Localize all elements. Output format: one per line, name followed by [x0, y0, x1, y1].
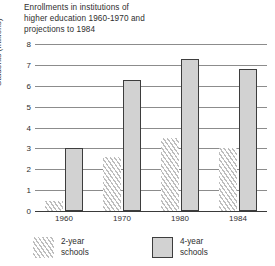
bar-1970-four-year — [123, 80, 141, 212]
chart-legend: 2-yearschools4-yearschools — [33, 236, 273, 264]
x-tick-label-1984: 1984 — [229, 214, 247, 223]
bar-1984-four-year — [239, 69, 257, 211]
legend-swatch-four-year-icon — [152, 237, 173, 258]
legend-item-four-year-schools: 4-yearschools — [152, 236, 208, 258]
legend-label: 2-yearschools — [61, 236, 89, 258]
x-tick-label-1960: 1960 — [55, 214, 73, 223]
chart-title: Enrollments in institutions of higher ed… — [24, 2, 254, 36]
y-tick-label-7: 7 — [27, 60, 31, 69]
bar-1984-two-year — [219, 148, 237, 211]
bars-layer — [35, 44, 267, 211]
bar-1980-two-year — [161, 138, 179, 211]
y-tick-label-6: 6 — [27, 81, 31, 90]
bar-1960-two-year — [45, 201, 63, 211]
y-tick-label-1: 1 — [27, 186, 31, 195]
y-tick-label-8: 8 — [27, 40, 31, 49]
legend-label-line: 2-year — [61, 236, 89, 247]
y-tick-label-3: 3 — [27, 144, 31, 153]
y-axis-title: Students (millions) — [0, 18, 3, 86]
gridline-0: 0 — [35, 211, 267, 212]
y-tick-label-4: 4 — [27, 123, 31, 132]
legend-label-line: schools — [180, 247, 208, 258]
x-tick-label-1980: 1980 — [171, 214, 189, 223]
legend-swatch-two-year-icon — [33, 237, 54, 258]
bar-1980-four-year — [181, 59, 199, 211]
chart-title-line-1: Enrollments in institutions of — [24, 2, 254, 13]
chart-title-line-3: projections to 1984 — [24, 24, 254, 35]
y-tick-label-5: 5 — [27, 102, 31, 111]
legend-label-line: 4-year — [180, 236, 208, 247]
bar-1970-two-year — [103, 157, 121, 211]
legend-item-two-year-schools: 2-yearschools — [33, 236, 89, 258]
y-tick-label-0: 0 — [27, 207, 31, 216]
x-tick-label-1970: 1970 — [113, 214, 131, 223]
legend-label: 4-yearschools — [180, 236, 208, 258]
y-tick-label-2: 2 — [27, 165, 31, 174]
legend-label-line: schools — [61, 247, 89, 258]
bar-1960-four-year — [65, 148, 83, 211]
x-axis-labels: 1960197019801984 — [35, 214, 267, 226]
chart-title-line-2: higher education 1960-1970 and — [24, 13, 254, 24]
